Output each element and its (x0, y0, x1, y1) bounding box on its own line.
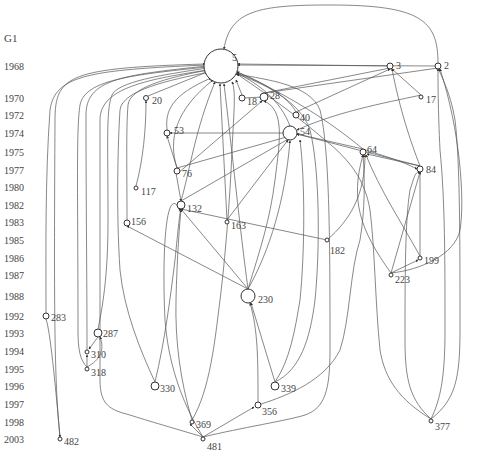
citation-edge (167, 136, 177, 168)
graph-node[interactable]: 339 (271, 382, 296, 394)
graph-node[interactable]: 230 (241, 289, 273, 305)
citation-edge (296, 69, 390, 112)
graph-node[interactable]: 28 (260, 90, 280, 101)
year-axis: 1968197019721974197519771980198219831985… (4, 61, 24, 445)
citation-edge (224, 5, 438, 63)
node-label: 182 (330, 245, 345, 256)
node-circle[interactable] (417, 166, 423, 172)
citation-edge (181, 82, 215, 201)
node-circle[interactable] (85, 350, 89, 354)
node-circle[interactable] (134, 186, 138, 190)
graph-node[interactable]: 5 (204, 49, 238, 83)
node-circle[interactable] (387, 63, 393, 69)
node-circle[interactable] (255, 402, 261, 408)
graph-title: G1 (4, 32, 17, 44)
year-label: 1986 (4, 253, 24, 264)
citation-edge (127, 70, 208, 220)
citation-edge (176, 173, 181, 201)
node-circle[interactable] (190, 420, 194, 424)
graph-node[interactable]: 377 (429, 419, 450, 432)
graph-node[interactable]: 17 (419, 94, 436, 105)
graph-node[interactable]: 18 (239, 95, 257, 107)
node-circle[interactable] (260, 93, 268, 101)
year-label: 1977 (4, 165, 24, 176)
graph-node[interactable]: 40 (293, 112, 310, 123)
node-circle[interactable] (271, 382, 279, 390)
year-label: 1992 (4, 311, 24, 322)
citation-graph: G1 1968197019721974197519771980198219831… (0, 0, 479, 462)
year-label: 1996 (4, 381, 24, 392)
node-label: 377 (435, 421, 450, 432)
graph-node[interactable]: 310 (85, 349, 106, 360)
node-circle[interactable] (58, 437, 62, 441)
year-label: 1972 (4, 110, 24, 121)
year-label: 1968 (4, 61, 24, 72)
graph-node[interactable]: 54 (283, 126, 310, 140)
citation-edge (46, 319, 60, 437)
node-label: 117 (141, 186, 156, 197)
citation-edge (327, 155, 365, 240)
graph-node[interactable]: 481 (201, 437, 222, 452)
graph-node[interactable]: 318 (85, 367, 106, 378)
citation-edge (227, 140, 288, 220)
node-circle[interactable] (435, 63, 441, 69)
graph-node[interactable]: 287 (94, 328, 118, 339)
node-circle[interactable] (85, 367, 89, 371)
node-label: 339 (281, 383, 296, 394)
node-circle[interactable] (164, 130, 170, 136)
graph-node[interactable]: 330 (151, 382, 175, 394)
graph-node[interactable]: 117 (134, 186, 156, 197)
node-label: 40 (300, 112, 310, 123)
node-label: 283 (51, 312, 66, 323)
node-circle[interactable] (94, 329, 102, 337)
node-circle[interactable] (283, 126, 297, 140)
node-circle[interactable] (239, 95, 245, 101)
node-label: 28 (270, 90, 280, 101)
year-label: 1980 (4, 182, 24, 193)
node-label: 54 (300, 126, 310, 137)
node-circle[interactable] (389, 273, 393, 277)
graph-node[interactable]: 223 (389, 273, 410, 285)
graph-node[interactable]: 64 (360, 144, 377, 155)
node-circle[interactable] (144, 96, 149, 101)
node-circle[interactable] (325, 238, 329, 242)
node-label: 287 (103, 328, 118, 339)
node-circle[interactable] (241, 289, 255, 303)
node-circle[interactable] (419, 95, 423, 99)
node-circle[interactable] (177, 201, 185, 209)
year-label: 1998 (4, 417, 24, 428)
node-circle[interactable] (293, 112, 299, 118)
graph-node[interactable]: 482 (58, 436, 79, 447)
graph-node[interactable]: 369 (190, 419, 211, 430)
node-circle[interactable] (360, 149, 366, 155)
node-circle[interactable] (429, 419, 433, 423)
node-label: 156 (131, 216, 146, 227)
node-label: 64 (367, 144, 377, 155)
node-label: 223 (395, 274, 410, 285)
node-circle[interactable] (43, 313, 49, 319)
year-label: 1988 (4, 291, 24, 302)
node-circle[interactable] (124, 220, 130, 226)
node-circle[interactable] (201, 437, 205, 441)
node-label: 481 (207, 441, 222, 452)
node-circle[interactable] (151, 382, 159, 390)
graph-node[interactable]: 163 (225, 220, 246, 231)
citation-edge (177, 136, 290, 168)
graph-node[interactable]: 2 (435, 60, 449, 71)
node-label: 17 (426, 94, 436, 105)
node-circle[interactable] (174, 168, 180, 174)
graph-node[interactable]: 199 (418, 255, 439, 266)
node-circle[interactable] (418, 256, 422, 260)
citation-edge (250, 303, 258, 402)
citation-edge (251, 303, 275, 382)
node-label: 369 (196, 419, 211, 430)
citation-edge (275, 140, 304, 382)
node-circle[interactable] (225, 220, 229, 224)
citation-edge (177, 101, 262, 174)
citation-edge (366, 155, 420, 256)
graph-node[interactable]: 182 (325, 238, 345, 256)
citation-edge (431, 69, 460, 419)
citation-edge (248, 101, 279, 289)
graph-node[interactable]: 356 (255, 402, 277, 417)
citation-edge (173, 80, 213, 168)
